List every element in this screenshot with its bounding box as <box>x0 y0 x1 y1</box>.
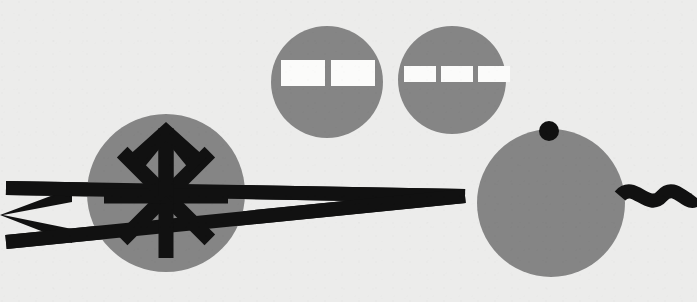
disc-bar <box>478 66 510 82</box>
two-bar-disc-group <box>271 26 383 138</box>
disc-bar <box>441 66 473 82</box>
three-bar-disc-bars <box>404 66 510 82</box>
artwork-svg <box>0 0 697 302</box>
artwork-canvas <box>0 0 697 302</box>
head-disc <box>477 129 625 277</box>
disc-bar <box>281 60 325 86</box>
disc-bar <box>331 60 375 86</box>
eye-dot-icon <box>539 121 559 141</box>
disc-bar <box>404 66 436 82</box>
